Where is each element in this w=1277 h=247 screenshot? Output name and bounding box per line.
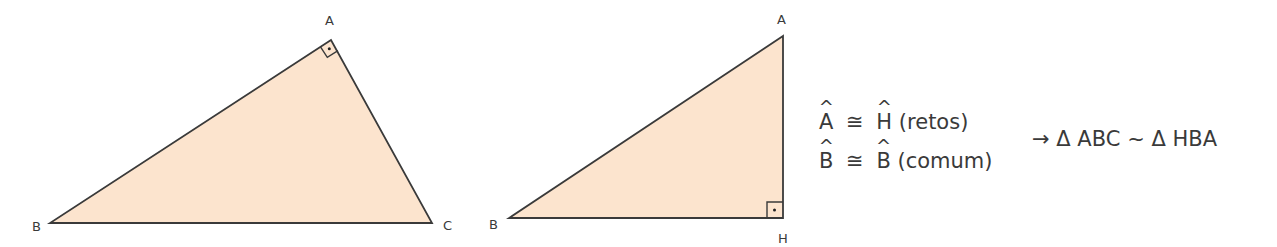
vertex-label-b1: B	[32, 219, 41, 234]
angle-a-symbol: ^ A	[819, 110, 833, 134]
congruence-line-2: ^ B ≅ ^ B (comum)	[819, 149, 993, 173]
congruent-sign: ≅	[846, 110, 864, 134]
triangle-name-2: HBA	[1172, 127, 1217, 151]
similar-sign: ~	[1127, 127, 1145, 151]
triangle-hba	[509, 36, 783, 218]
arrow-icon: →	[1032, 127, 1050, 151]
congruent-sign: ≅	[846, 149, 864, 173]
vertex-label-c1: C	[443, 218, 452, 233]
hat-icon: ^	[877, 98, 892, 116]
vertex-label-b2: B	[489, 217, 498, 232]
vertex-label-a2: A	[777, 12, 786, 27]
delta-symbol-2: Δ	[1151, 127, 1165, 151]
congruence-line-1: ^ A ≅ ^ H (retos)	[819, 110, 968, 134]
hat-icon: ^	[819, 98, 834, 116]
triangle-name-1: ABC	[1077, 127, 1120, 151]
angle-h-symbol: ^ H	[876, 110, 892, 134]
hat-icon: ^	[876, 137, 891, 155]
note-comum: (comum)	[898, 149, 993, 173]
note-retos: (retos)	[899, 110, 969, 134]
delta-symbol-1: Δ	[1056, 127, 1070, 151]
vertex-label-a1: A	[325, 13, 334, 28]
hat-icon: ^	[819, 137, 834, 155]
angle-b-symbol-2: ^ B	[876, 149, 890, 173]
similarity-conclusion: → Δ ABC ~ Δ HBA	[1032, 127, 1217, 151]
angle-b-symbol: ^ B	[819, 149, 833, 173]
geometry-figure: A B C A B H	[0, 0, 1277, 247]
vertex-label-h2: H	[778, 231, 788, 246]
triangle-abc	[50, 40, 432, 223]
